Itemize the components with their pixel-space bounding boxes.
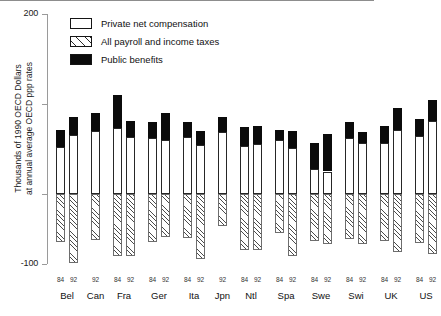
x-year-label-ger-92: 92 <box>158 276 174 283</box>
segment-payroll-income-taxes <box>218 194 227 226</box>
segment-payroll-income-taxes <box>345 194 354 239</box>
segment-private-net-compensation <box>345 138 354 194</box>
segment-public-benefits <box>288 131 297 148</box>
x-year-label-uk-92: 92 <box>390 276 406 283</box>
segment-payroll-income-taxes <box>310 194 319 241</box>
segment-payroll-income-taxes <box>253 194 262 250</box>
segment-public-benefits <box>323 134 332 172</box>
segment-payroll-income-taxes <box>183 194 192 238</box>
segment-payroll-income-taxes <box>161 194 170 237</box>
segment-payroll-income-taxes <box>240 194 249 250</box>
segment-public-benefits <box>148 122 157 138</box>
segment-private-net-compensation <box>69 135 78 194</box>
segment-private-net-compensation <box>393 130 402 194</box>
segment-private-net-compensation <box>56 147 65 194</box>
segment-private-net-compensation <box>253 144 262 194</box>
segment-payroll-income-taxes <box>428 194 437 254</box>
segment-public-benefits <box>113 95 122 128</box>
segment-private-net-compensation <box>148 138 157 194</box>
segment-private-net-compensation <box>380 143 389 194</box>
x-year-label-fra-92: 92 <box>123 276 139 283</box>
x-year-label-bel-92: 92 <box>66 276 82 283</box>
segment-public-benefits <box>253 126 262 144</box>
segment-public-benefits <box>393 108 402 131</box>
x-group-label-us: US <box>401 290 441 301</box>
segment-payroll-income-taxes <box>380 194 389 241</box>
segment-private-net-compensation <box>113 128 122 194</box>
segment-public-benefits <box>161 113 170 140</box>
x-year-label-can-92: 92 <box>88 276 104 283</box>
x-year-label-swi-92: 92 <box>355 276 371 283</box>
segment-public-benefits <box>310 143 319 169</box>
segment-payroll-income-taxes <box>91 194 100 240</box>
segment-private-net-compensation <box>358 143 367 194</box>
segment-private-net-compensation <box>323 172 332 195</box>
segment-payroll-income-taxes <box>323 194 332 244</box>
x-year-label-us-92: 92 <box>425 276 441 283</box>
segment-public-benefits <box>275 130 284 140</box>
segment-public-benefits <box>91 113 100 131</box>
segment-public-benefits <box>415 119 424 136</box>
segment-public-benefits <box>56 130 65 147</box>
segment-private-net-compensation <box>161 140 170 194</box>
segment-payroll-income-taxes <box>288 194 297 256</box>
segment-public-benefits <box>126 121 135 137</box>
segment-private-net-compensation <box>275 140 284 194</box>
segment-private-net-compensation <box>288 148 297 194</box>
segment-private-net-compensation <box>310 169 319 194</box>
segment-public-benefits <box>69 117 78 135</box>
segment-private-net-compensation <box>415 136 424 194</box>
segment-payroll-income-taxes <box>275 194 284 233</box>
segment-private-net-compensation <box>196 145 205 195</box>
segment-public-benefits <box>196 131 205 145</box>
segment-payroll-income-taxes <box>196 194 205 259</box>
segment-private-net-compensation <box>240 146 249 194</box>
segment-payroll-income-taxes <box>415 194 424 243</box>
segment-public-benefits <box>380 126 389 143</box>
x-year-label-ntl-92: 92 <box>250 276 266 283</box>
segment-payroll-income-taxes <box>69 194 78 263</box>
segment-public-benefits <box>218 117 227 132</box>
segment-payroll-income-taxes <box>148 194 157 242</box>
segment-payroll-income-taxes <box>126 194 135 256</box>
segment-payroll-income-taxes <box>393 194 402 252</box>
x-year-label-jpn-92: 92 <box>215 276 231 283</box>
segment-payroll-income-taxes <box>113 194 122 256</box>
x-year-label-spa-92: 92 <box>285 276 301 283</box>
segment-public-benefits <box>428 100 437 121</box>
segment-public-benefits <box>183 122 192 137</box>
segment-private-net-compensation <box>428 121 437 194</box>
segment-private-net-compensation <box>183 137 192 194</box>
segment-public-benefits <box>358 132 367 143</box>
segment-public-benefits <box>345 122 354 138</box>
x-year-label-ita-92: 92 <box>193 276 209 283</box>
segment-private-net-compensation <box>126 137 135 194</box>
segment-private-net-compensation <box>91 131 100 194</box>
segment-private-net-compensation <box>218 132 227 194</box>
segment-payroll-income-taxes <box>358 194 367 244</box>
segment-payroll-income-taxes <box>56 194 65 242</box>
x-year-label-swe-92: 92 <box>320 276 336 283</box>
segment-public-benefits <box>240 127 249 147</box>
